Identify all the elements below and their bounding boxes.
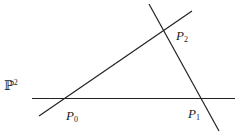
projective-plane-diagram	[0, 0, 239, 138]
point-index: 2	[184, 35, 188, 44]
plane-exponent: 2	[14, 78, 18, 87]
point-name: P	[66, 108, 74, 123]
point-index: 0	[74, 115, 78, 124]
point-index: 1	[196, 113, 200, 122]
point-label-p2: P2	[176, 29, 188, 44]
point-label-p0: P0	[66, 109, 78, 124]
plane-symbol: ℙ	[4, 78, 14, 93]
point-name: P	[188, 106, 196, 121]
point-label-p1: P1	[188, 107, 200, 122]
plane-label: ℙ2	[4, 79, 18, 92]
point-name: P	[176, 28, 184, 43]
line-p0-p2	[39, 11, 192, 116]
line-p2-p1	[149, 4, 219, 131]
